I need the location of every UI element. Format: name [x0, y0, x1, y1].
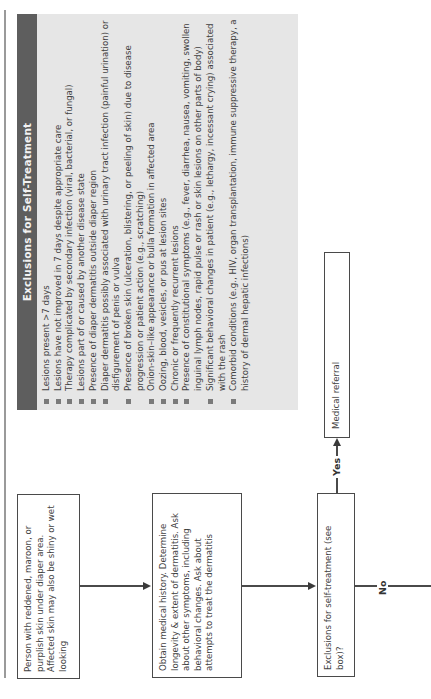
exclusion-item: Lesions have not improved in 7 days desp… [53, 18, 65, 404]
no-branch-line [355, 586, 431, 588]
square-bullet-icon [126, 399, 131, 404]
exclusions-title: Exclusions for Self-Treatment [17, 14, 37, 410]
square-bullet-icon [103, 399, 108, 404]
exclusion-item: Diaper dermatitis possibly associated wi… [100, 18, 123, 404]
exclusions-box: Exclusions for Self-Treatment Lesions pr… [17, 14, 298, 410]
exclusion-item: Chronic or frequently recurrent lesions [170, 18, 182, 404]
exclusion-item: Therapy complicated by secondary infecti… [64, 18, 76, 404]
exclusion-item: Presence of diaper dermatitis outside di… [88, 18, 100, 404]
square-bullet-icon [149, 399, 154, 404]
connector-line [242, 586, 309, 588]
square-bullet-icon [184, 399, 189, 404]
square-bullet-icon [79, 399, 84, 404]
exclusions-decision-box: Exclusions for self-treatment (see box)? [317, 493, 355, 677]
exclusion-item: Significant behavioral changes in patien… [205, 18, 228, 404]
no-label: No [377, 579, 388, 597]
yes-label: Yes [331, 456, 342, 478]
square-bullet-icon [208, 399, 213, 404]
connector-line [80, 586, 144, 588]
diaper-dermatitis-flowchart: Exclusions for Self-Treatment Lesions pr… [0, 0, 431, 699]
page-margin-rule [4, 10, 6, 678]
square-bullet-icon [44, 399, 49, 404]
exclusion-item: Lesions part of or caused by another dis… [76, 18, 88, 404]
square-bullet-icon [67, 399, 72, 404]
square-bullet-icon [231, 399, 236, 404]
exclusion-item: Onion-skin–like appearance or bulla form… [146, 18, 158, 404]
medical-referral-box: Medical referral [324, 252, 350, 438]
exclusion-item: Lesions present >7 days [41, 18, 53, 404]
exclusions-list: Lesions present >7 days Lesions have not… [41, 18, 252, 404]
exclusion-item: Comorbid conditions (e.g., HIV, organ tr… [228, 18, 251, 404]
exclusion-item: Presence of broken skin (ulceration, bli… [123, 18, 146, 404]
exclusion-item: Presence of constitutional symptoms (e.g… [181, 18, 204, 404]
medical-history-box: Obtain medical history. Determine longev… [152, 493, 242, 678]
arrow-head-icon [308, 582, 316, 590]
square-bullet-icon [91, 399, 96, 404]
presentation-box: Person with reddened, maroon, or purplis… [17, 494, 80, 679]
arrow-head-icon [143, 582, 151, 590]
square-bullet-icon [173, 399, 178, 404]
arrow-head-icon [333, 438, 341, 446]
square-bullet-icon [56, 399, 61, 404]
exclusion-item: Oozing, blood, vesicles, or pus at lesio… [158, 18, 170, 404]
square-bullet-icon [161, 399, 166, 404]
